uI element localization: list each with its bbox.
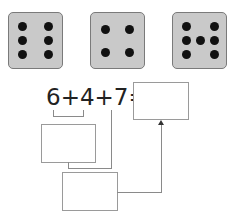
pip: [182, 22, 191, 31]
pip: [101, 25, 110, 34]
pip: [18, 22, 27, 31]
pip: [182, 36, 191, 45]
pip: [196, 36, 205, 45]
pip: [182, 50, 191, 59]
die-seven: [172, 12, 227, 69]
pip: [44, 36, 53, 45]
die-six: [8, 12, 63, 69]
pip: [101, 48, 110, 57]
line-from-seven: [111, 110, 112, 169]
line-to-answer-vertical: [161, 125, 162, 193]
pip: [210, 36, 219, 45]
pip: [125, 25, 134, 34]
pip: [125, 48, 134, 57]
answer-box[interactable]: [133, 82, 189, 120]
pip: [18, 50, 27, 59]
pip: [210, 50, 219, 59]
line-join-horizontal: [68, 168, 112, 169]
partial-sum-box-6-4[interactable]: [41, 124, 96, 163]
pip: [44, 22, 53, 31]
partial-sum-box-total[interactable]: [62, 172, 118, 211]
pip: [18, 36, 27, 45]
arrow-up-icon: [158, 120, 164, 125]
pip: [210, 22, 219, 31]
line-to-answer-horizontal: [117, 192, 162, 193]
die-four: [90, 12, 145, 69]
bracket-6-4-bar: [53, 116, 84, 117]
pip: [44, 50, 53, 59]
